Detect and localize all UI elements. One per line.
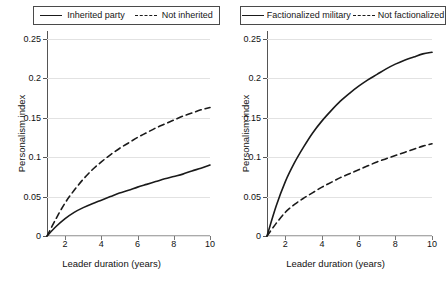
series-line-inherited-party [47, 165, 210, 236]
y-axis-tick-label: 0.15 [23, 113, 41, 123]
x-axis-tick-label: 4 [319, 239, 324, 249]
legend-label-not-inherited: Not inherited [162, 11, 213, 20]
y-axis-tick-label: 0.25 [23, 34, 41, 44]
solid-line-key-icon [242, 15, 264, 16]
right-plot-area: 00.050.10.150.20.25 246810 [267, 31, 432, 236]
y-axis-tick-label: 0 [36, 231, 41, 241]
left-curves [47, 31, 210, 236]
left-plot-area: 00.050.10.150.20.25 246810 [47, 31, 210, 236]
x-axis-tick-label: 4 [99, 239, 104, 249]
y-axis-tick-label: 0.25 [243, 34, 261, 44]
series-line-not-factionalized [267, 144, 432, 236]
personalism-index-figure: Inherited party Not inherited Personalis… [0, 0, 447, 281]
x-axis-tick-label: 6 [356, 239, 361, 249]
left-x-axis-label: Leader duration (years) [8, 258, 215, 269]
y-axis-tick-label: 0.15 [243, 113, 261, 123]
right-panel: Factionalized military Not factionalized… [224, 0, 447, 281]
solid-line-key-icon [40, 15, 62, 16]
x-axis-tick-label: 2 [63, 239, 68, 249]
gridline [47, 236, 210, 237]
y-axis-tick-label: 0.2 [28, 73, 41, 83]
series-line-not-inherited [47, 107, 210, 236]
y-axis-tick-label: 0.2 [248, 73, 261, 83]
dashed-line-key-icon [353, 15, 375, 16]
y-axis-tick-label: 0.05 [243, 192, 261, 202]
y-axis-tick-label: 0.05 [23, 192, 41, 202]
left-panel: Inherited party Not inherited Personalis… [0, 0, 223, 281]
right-curves [267, 31, 432, 236]
x-axis-tick-label: 2 [283, 239, 288, 249]
right-panel-legend: Factionalized military Not factionalized [240, 6, 446, 25]
legend-entry-factionalized-military: Factionalized military [242, 11, 351, 20]
y-axis-tick-label: 0.1 [28, 152, 41, 162]
legend-label-inherited-party: Inherited party [67, 11, 125, 20]
y-axis-tick-label: 0.1 [248, 152, 261, 162]
y-axis-tick-label: 0 [256, 231, 261, 241]
x-axis-tick-label: 8 [171, 239, 176, 249]
x-axis-tick-label: 6 [135, 239, 140, 249]
legend-entry-inherited-party: Inherited party [40, 11, 125, 20]
legend-entry-not-inherited: Not inherited [135, 11, 213, 20]
series-line-factionalized-military [267, 52, 432, 236]
x-axis-tick-label: 10 [205, 239, 215, 249]
right-x-axis-label: Leader duration (years) [224, 258, 447, 269]
left-panel-legend: Inherited party Not inherited [33, 6, 220, 25]
legend-entry-not-factionalized: Not factionalized [353, 11, 445, 20]
dashed-line-key-icon [135, 15, 157, 16]
x-axis-tick-label: 10 [427, 239, 437, 249]
x-axis-tick-label: 8 [393, 239, 398, 249]
legend-label-factionalized-military: Factionalized military [267, 11, 351, 20]
left-y-axis-label: Personalism index [16, 59, 27, 209]
legend-label-not-factionalized: Not factionalized [378, 11, 445, 20]
gridline [267, 236, 432, 237]
